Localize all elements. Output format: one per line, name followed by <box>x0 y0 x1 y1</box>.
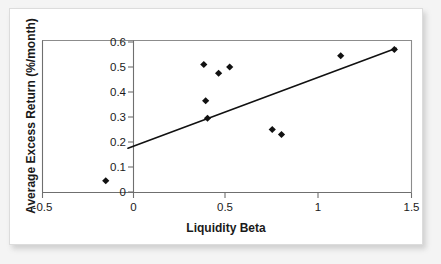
x-tick-label-1: 1 <box>315 201 321 213</box>
trend-line <box>128 48 396 148</box>
x-axis-title: Liquidity Beta <box>186 221 266 235</box>
y-tick-label-0.6: 0.6 <box>110 36 126 48</box>
y-tick-label-0.4: 0.4 <box>110 86 127 98</box>
y-axis-title: Average Excess Return (%/month) <box>24 18 38 214</box>
y-tick-label-0: 0 <box>120 186 126 198</box>
data-point <box>215 70 222 77</box>
y-tick-label-0.2: 0.2 <box>110 136 126 148</box>
data-point <box>204 115 211 122</box>
x-axis-ticks <box>43 193 412 199</box>
data-point <box>278 131 285 138</box>
y-tick-label-0.3: 0.3 <box>110 111 126 123</box>
x-tick-label-0: 0 <box>130 201 136 213</box>
data-point <box>226 63 233 70</box>
data-point <box>391 46 398 53</box>
data-point <box>337 52 344 59</box>
x-tick-label-0.5: 0.5 <box>217 201 233 213</box>
data-point-group <box>102 46 398 184</box>
x-tick-label-1.5: 1.5 <box>404 201 420 213</box>
data-point <box>202 97 209 104</box>
data-point <box>102 177 109 184</box>
scatter-chart: 0.6 0.5 0.4 0.3 0.2 0.1 0 -0.5 0 0.5 1 1… <box>0 0 441 264</box>
y-tick-label-0.5: 0.5 <box>110 61 126 73</box>
y-tick-label-0.1: 0.1 <box>110 161 126 173</box>
y-axis-ticks <box>128 42 134 192</box>
data-point <box>200 61 207 68</box>
figure-root: 0.6 0.5 0.4 0.3 0.2 0.1 0 -0.5 0 0.5 1 1… <box>0 0 441 264</box>
data-point <box>269 126 276 133</box>
